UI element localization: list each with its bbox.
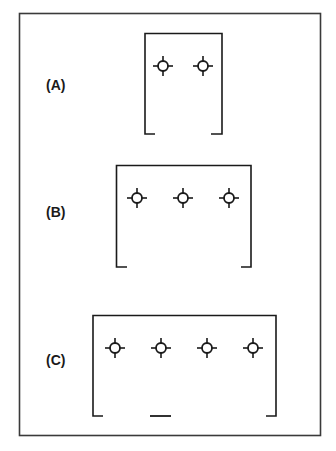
crosshair-circle-icon <box>243 338 263 358</box>
crosshair-circle-icon <box>193 56 213 76</box>
panel-a: (A) <box>46 34 222 135</box>
fixture-circle <box>158 61 168 71</box>
panel-b-fixtures <box>127 188 239 208</box>
crosshair-circle-icon <box>151 338 171 358</box>
panel-a-enclosure <box>145 34 222 135</box>
panel-a-fixtures <box>153 56 213 76</box>
panel-c-fixtures <box>105 338 263 358</box>
fixture-circle <box>248 343 258 353</box>
crosshair-circle-icon <box>197 338 217 358</box>
fixture-circle <box>202 343 212 353</box>
panel-b: (B) <box>46 166 251 268</box>
fixture-circle <box>224 193 234 203</box>
fixture-circle <box>198 61 208 71</box>
panel-c-enclosure <box>93 316 276 417</box>
crosshair-circle-icon <box>127 188 147 208</box>
panel-a-label: (A) <box>46 77 65 93</box>
fixture-circle <box>178 193 188 203</box>
panel-b-label: (B) <box>46 204 65 220</box>
crosshair-circle-icon <box>105 338 125 358</box>
crosshair-circle-icon <box>173 188 193 208</box>
fixture-circle <box>132 193 142 203</box>
diagram-canvas: (A) (B) (C) <box>0 0 336 451</box>
panel-b-enclosure <box>117 166 252 268</box>
panel-c-label: (C) <box>46 352 65 368</box>
fixture-circle <box>156 343 166 353</box>
crosshair-circle-icon <box>219 188 239 208</box>
crosshair-circle-icon <box>153 56 173 76</box>
fixture-circle <box>110 343 120 353</box>
panel-c: (C) <box>46 316 276 417</box>
